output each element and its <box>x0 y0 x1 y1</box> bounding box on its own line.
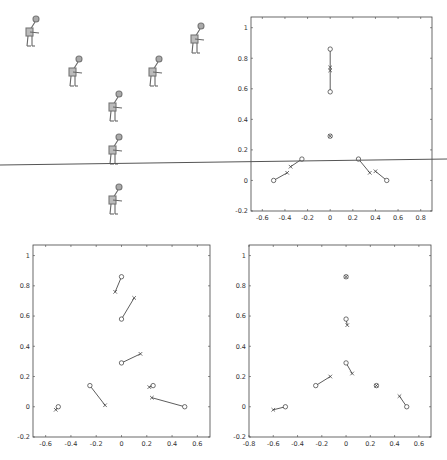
circle-marker <box>183 405 187 409</box>
cross-marker <box>350 372 354 376</box>
cross-marker <box>132 296 136 300</box>
displacement-segment <box>358 159 369 173</box>
y-tick-label: 0.6 <box>238 85 248 93</box>
x-tick-label: -0.4 <box>279 214 292 222</box>
displacement-segment <box>122 354 141 363</box>
cross-marker <box>285 171 289 175</box>
x-tick-label: 0.2 <box>142 440 152 448</box>
horizon-line <box>0 159 447 165</box>
x-tick-label: -0.6 <box>267 440 280 448</box>
circle-marker <box>151 383 155 387</box>
circle-marker <box>283 405 287 409</box>
scatter-plot-3: -0.8-0.6-0.4-0.200.20.40.6-0.200.20.40.6… <box>233 245 431 448</box>
y-tick-label: 0 <box>244 177 248 185</box>
x-tick-label: -0.6 <box>39 440 52 448</box>
cross-marker <box>328 375 332 379</box>
x-tick-label: 0.6 <box>192 440 202 448</box>
pose-figure <box>69 56 82 86</box>
circle-marker <box>314 383 318 387</box>
circle-marker <box>328 47 332 51</box>
x-tick-label: 0.4 <box>370 214 380 222</box>
x-tick-label: 0.2 <box>365 440 375 448</box>
plot-frame <box>251 17 432 211</box>
cross-marker <box>289 165 293 169</box>
pose-figure <box>109 184 122 214</box>
cross-marker <box>139 352 143 356</box>
circle-marker <box>328 90 332 94</box>
cross-marker <box>54 408 58 412</box>
pose-figure <box>109 134 122 164</box>
plot-frame <box>249 245 431 437</box>
x-tick-label: 0.4 <box>167 440 177 448</box>
y-tick-label: 0.2 <box>238 146 248 154</box>
scatter-plot-2: -0.6-0.4-0.200.20.40.6-0.200.20.40.60.81 <box>17 245 210 448</box>
circle-marker <box>344 317 348 321</box>
cross-marker <box>398 394 402 398</box>
circle-marker <box>119 317 123 321</box>
cross-marker <box>148 385 152 389</box>
figure-canvas: -0.6-0.4-0.200.20.40.60.8-0.200.20.40.60… <box>0 0 447 460</box>
x-tick-label: 0.4 <box>389 440 399 448</box>
pose-figure <box>26 16 39 46</box>
circle-marker <box>88 383 92 387</box>
cross-marker <box>103 403 107 407</box>
x-tick-label: 0.2 <box>348 214 358 222</box>
y-tick-label: 0.2 <box>20 373 30 381</box>
scatter-plot-1: -0.6-0.4-0.200.20.40.60.8-0.200.20.40.60… <box>235 17 432 222</box>
y-tick-label: 0.4 <box>236 343 246 351</box>
cross-marker <box>113 290 117 294</box>
x-tick-label: -0.4 <box>65 440 78 448</box>
y-tick-label: 0 <box>26 403 30 411</box>
circle-marker <box>271 178 275 182</box>
y-tick-label: 0.8 <box>238 55 248 63</box>
circle-marker <box>119 361 123 365</box>
displacement-segment <box>122 298 135 319</box>
circle-marker <box>56 405 60 409</box>
circle-marker <box>405 405 409 409</box>
y-tick-label: -0.2 <box>233 433 246 441</box>
y-tick-label: 0.4 <box>20 343 30 351</box>
displacement-segment <box>152 398 185 407</box>
pose-figure <box>149 56 162 86</box>
cross-marker <box>368 171 372 175</box>
y-tick-label: 1 <box>26 252 30 260</box>
displacement-segment <box>90 386 105 406</box>
y-tick-label: -0.2 <box>17 433 30 441</box>
x-tick-label: 0 <box>328 214 332 222</box>
y-tick-label: 0.8 <box>236 282 246 290</box>
x-tick-label: -0.2 <box>315 440 328 448</box>
x-tick-label: 0.8 <box>416 214 426 222</box>
x-tick-label: 0.6 <box>414 440 424 448</box>
x-tick-label: -0.2 <box>301 214 314 222</box>
pose-figure <box>109 91 122 121</box>
circle-marker <box>385 178 389 182</box>
y-tick-label: 0.2 <box>236 373 246 381</box>
y-tick-label: -0.2 <box>235 207 248 215</box>
circle-marker <box>344 361 348 365</box>
y-tick-label: 0.6 <box>236 312 246 320</box>
circle-marker <box>119 275 123 279</box>
y-tick-label: 0.6 <box>20 312 30 320</box>
y-tick-label: 0 <box>242 403 246 411</box>
cross-marker <box>374 169 378 173</box>
pose-figure <box>191 23 204 53</box>
y-tick-label: 0.8 <box>20 282 30 290</box>
x-tick-label: 0 <box>344 440 348 448</box>
x-tick-label: -0.6 <box>256 214 269 222</box>
y-tick-label: 1 <box>244 24 248 32</box>
y-tick-label: 0.4 <box>238 116 248 124</box>
x-tick-label: -0.2 <box>90 440 103 448</box>
x-tick-label: 0.6 <box>393 214 403 222</box>
displacement-segment <box>316 377 331 386</box>
x-tick-label: 0 <box>119 440 123 448</box>
x-tick-label: -0.4 <box>291 440 304 448</box>
y-tick-label: 1 <box>242 252 246 260</box>
